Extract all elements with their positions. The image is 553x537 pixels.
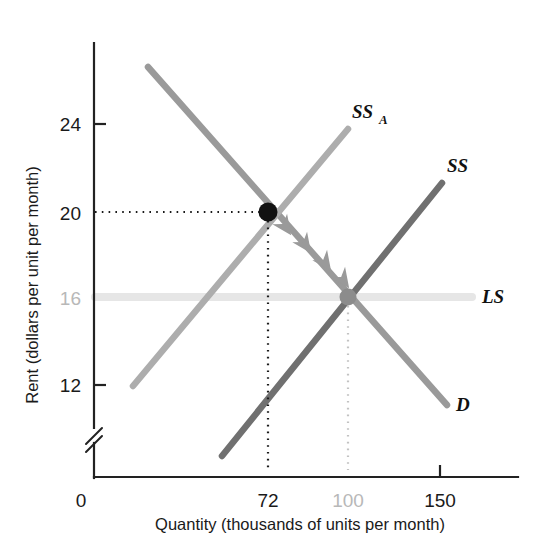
curve-label-ls: LS xyxy=(481,286,504,307)
curve-label-d: D xyxy=(455,394,470,415)
x-tick-label-72: 72 xyxy=(257,490,278,511)
y-axis-title: Rent (dollars per unit per month) xyxy=(23,166,41,404)
economics-supply-demand-chart: 24 20 16 12 0 72 100 150 Rent (dollars p… xyxy=(0,0,553,537)
curve-label-ss: SS xyxy=(447,155,468,176)
y-tick-label-24: 24 xyxy=(60,114,82,135)
x-tick-label-150: 150 xyxy=(424,490,456,511)
curve-label-ss-a: SS xyxy=(352,101,373,122)
chart-svg: 24 20 16 12 0 72 100 150 Rent (dollars p… xyxy=(0,0,553,537)
axis-break-mark-1 xyxy=(86,428,102,444)
y-tick-label-20: 20 xyxy=(60,203,81,224)
y-tick-label-12: 12 xyxy=(60,375,81,396)
point-initial-equilibrium xyxy=(259,203,278,222)
x-axis-title: Quantity (thousands of units per month) xyxy=(155,515,445,533)
curve-label-ss-a-subscript: A xyxy=(378,112,388,127)
x-tick-label-100: 100 xyxy=(332,490,364,511)
point-new-equilibrium xyxy=(340,289,357,306)
y-tick-label-16: 16 xyxy=(60,288,81,309)
x-origin-label: 0 xyxy=(76,490,87,511)
curve-ss xyxy=(222,183,442,456)
